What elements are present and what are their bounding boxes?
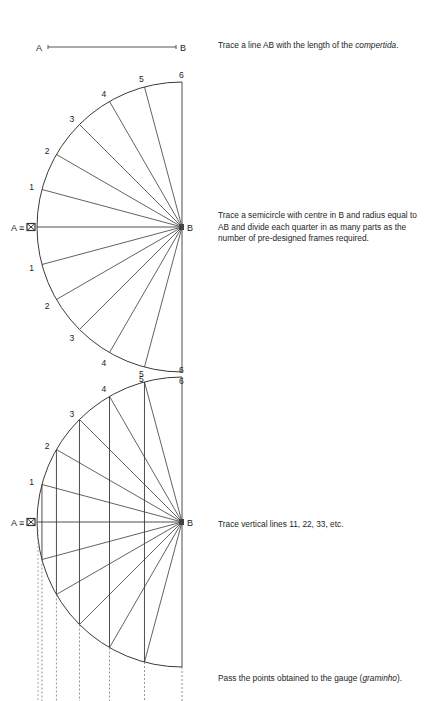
division-label-2: 2 (45, 146, 50, 156)
caption-italic-term: compertida (355, 40, 396, 50)
division-ray (144, 227, 182, 367)
label-b: B (187, 518, 193, 528)
label-b: B (180, 43, 186, 53)
step3-caption: Trace vertical lines 11, 22, 33, etc. (218, 519, 428, 531)
coincident-point-icon (27, 224, 35, 231)
division-label-2: 2 (45, 441, 50, 451)
label-a: A ≡ (11, 518, 24, 528)
division-ray (110, 396, 183, 522)
division-ray (79, 419, 182, 522)
division-ray (79, 522, 182, 625)
division-label-lower-2: 2 (45, 301, 50, 311)
coincident-point-icon (27, 519, 35, 526)
division-label-5: 5 (139, 369, 144, 379)
division-ray (144, 382, 182, 522)
division-ray (56, 155, 182, 228)
caption-text: Trace a line AB with the length of the (218, 40, 355, 50)
division-label-1: 1 (29, 182, 34, 192)
division-ray (42, 189, 182, 227)
division-label-lower-4: 4 (102, 358, 107, 368)
caption-text: ). (397, 673, 402, 683)
division-label-lower-1: 1 (29, 263, 34, 273)
step1-caption: Trace a line AB with the length of the c… (218, 40, 438, 52)
division-ray (42, 484, 182, 522)
division-ray (110, 101, 183, 227)
division-ray (144, 522, 182, 662)
division-label-3: 3 (69, 114, 74, 124)
division-ray (110, 227, 183, 353)
division-label-5: 5 (139, 74, 144, 84)
step2-caption: Trace a semicircle with centre in B and … (218, 210, 423, 245)
division-ray (56, 522, 182, 595)
center-point-b (179, 519, 184, 525)
division-ray (42, 227, 182, 265)
caption-text: . (396, 40, 398, 50)
step3-vertical-lines-diagram: A ≡B123456 (11, 365, 193, 701)
caption-text: Pass the points obtained to the gauge ( (218, 673, 362, 683)
division-ray (144, 87, 182, 227)
division-label-lower-3: 3 (69, 333, 74, 343)
division-ray (42, 522, 182, 560)
drawing-sheet: A B A ≡B112233445566 A ≡B123456 Trace a … (0, 0, 441, 701)
division-ray (56, 450, 182, 523)
label-a: A (36, 43, 42, 53)
label-b: B (187, 223, 193, 233)
step2-semicircle-diagram: A ≡B112233445566 (11, 70, 193, 386)
label-a: A ≡ (11, 223, 24, 233)
division-label-4: 4 (102, 384, 107, 394)
division-ray (56, 227, 182, 300)
division-ray (79, 227, 182, 330)
division-label-4: 4 (102, 89, 107, 99)
step1-line-ab: A B (36, 43, 186, 53)
construction-diagram: A B A ≡B112233445566 A ≡B123456 (0, 0, 441, 701)
division-label-1: 1 (29, 477, 34, 487)
division-label-6: 6 (179, 70, 184, 80)
step4-caption: Pass the points obtained to the gauge (g… (218, 673, 440, 685)
caption-italic-term: graminho (362, 673, 397, 683)
division-label-3: 3 (69, 409, 74, 419)
division-label-6: 6 (179, 365, 184, 375)
division-ray (110, 522, 183, 648)
division-ray (79, 124, 182, 227)
center-point-b (179, 224, 184, 230)
